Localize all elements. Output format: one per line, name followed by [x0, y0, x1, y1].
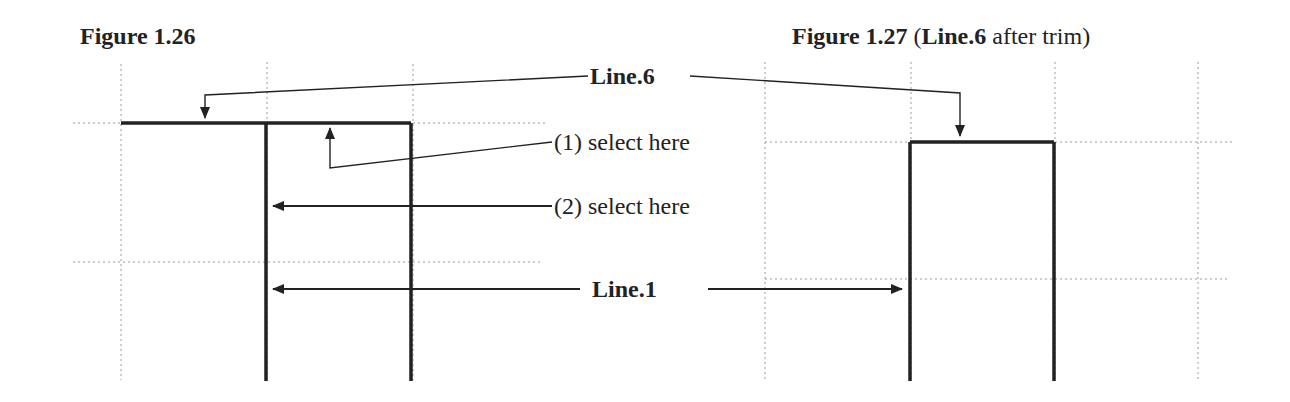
- callout-select-here-2: (2) select here: [552, 192, 692, 220]
- figure-1-27-leaders: [690, 76, 960, 289]
- figure-1-26-grid: [73, 62, 545, 380]
- figure-1-26-geometry: [121, 123, 411, 381]
- callout-line6: Line.6: [588, 62, 657, 90]
- figure-1-27-grid: [765, 62, 1232, 380]
- callout-select-here-1: (1) select here: [552, 128, 692, 156]
- figure-1-27-geometry: [910, 142, 1054, 381]
- figure-1-26-leaders: [205, 76, 588, 289]
- callout-line1: Line.1: [590, 275, 659, 303]
